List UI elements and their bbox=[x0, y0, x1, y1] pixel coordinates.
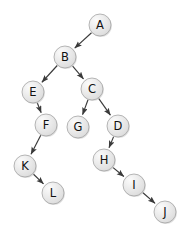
node-f[interactable]: F bbox=[35, 114, 58, 137]
node-circle[interactable] bbox=[35, 114, 57, 136]
edge-f-k bbox=[31, 135, 41, 154]
node-circle[interactable] bbox=[81, 78, 103, 100]
node-h[interactable]: H bbox=[93, 149, 116, 172]
nodes-layer: ABECFGDKHLIJ bbox=[14, 14, 177, 224]
node-i[interactable]: I bbox=[123, 174, 146, 197]
node-c[interactable]: C bbox=[81, 78, 104, 101]
node-k[interactable]: K bbox=[14, 155, 37, 178]
edge-a-b bbox=[75, 33, 92, 48]
node-circle[interactable] bbox=[123, 174, 145, 196]
node-j[interactable]: J bbox=[154, 201, 177, 224]
tree-diagram: ABECFGDKHLIJ bbox=[0, 0, 187, 238]
node-circle[interactable] bbox=[42, 182, 64, 204]
edge-c-d bbox=[99, 98, 111, 115]
node-circle[interactable] bbox=[54, 46, 76, 68]
edge-d-h bbox=[109, 137, 114, 148]
edge-i-j bbox=[143, 193, 155, 204]
node-circle[interactable] bbox=[93, 149, 115, 171]
node-circle[interactable] bbox=[14, 155, 36, 177]
node-d[interactable]: D bbox=[107, 115, 130, 138]
edge-b-c bbox=[72, 66, 83, 79]
edge-h-i bbox=[113, 167, 124, 176]
node-e[interactable]: E bbox=[22, 81, 45, 104]
node-circle[interactable] bbox=[154, 201, 176, 223]
node-l[interactable]: L bbox=[42, 182, 65, 205]
edge-c-g bbox=[83, 100, 88, 115]
node-b[interactable]: B bbox=[54, 46, 77, 69]
tree-graph-canvas: ABECFGDKHLIJ bbox=[0, 0, 187, 238]
node-a[interactable]: A bbox=[89, 14, 112, 37]
edge-b-e bbox=[42, 65, 57, 82]
node-circle[interactable] bbox=[22, 81, 44, 103]
node-g[interactable]: G bbox=[67, 116, 90, 139]
node-circle[interactable] bbox=[67, 116, 89, 138]
node-circle[interactable] bbox=[89, 14, 111, 36]
node-circle[interactable] bbox=[107, 115, 129, 137]
edge-k-l bbox=[33, 174, 43, 184]
edge-e-f bbox=[37, 103, 41, 113]
